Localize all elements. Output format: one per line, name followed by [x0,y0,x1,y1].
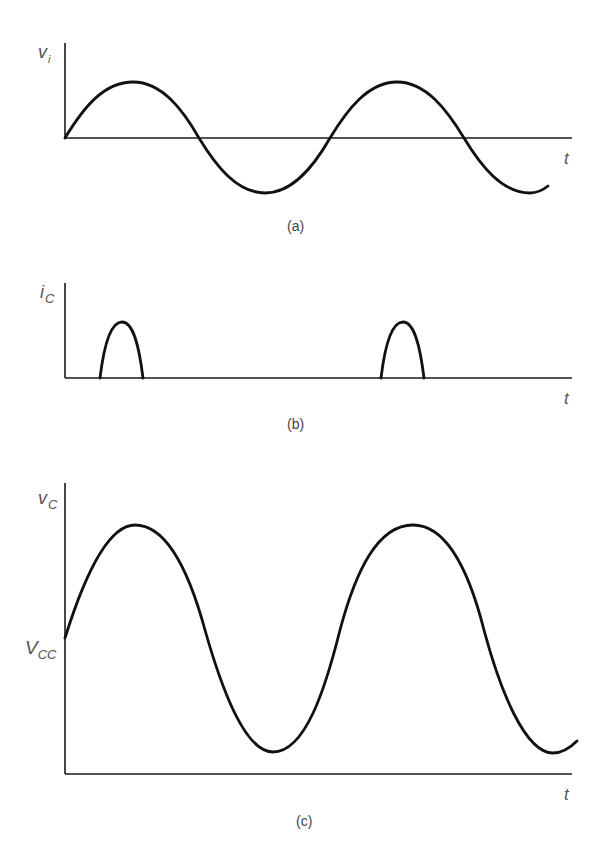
panel-a: vi t (a) [38,42,572,234]
panel-c-vc-waveform [65,525,577,753]
panel-a-y-label: vi [38,42,51,65]
panel-c-vcc-level-label: VCC [25,637,57,662]
panel-b-ic-pulse-1 [100,322,143,378]
panel-c: vC VCC t (c) [25,483,577,829]
class-c-waveform-figure: vi t (a) iC t (b) vC VCC t (c) [0,0,608,857]
panel-a-caption: (a) [287,218,304,234]
panel-c-y-label: vC [38,488,58,512]
panel-c-caption: (c) [296,813,312,829]
panel-b-caption: (b) [287,416,304,432]
panel-b-ic-pulse-2 [381,322,424,378]
panel-b: iC t (b) [40,282,572,432]
panel-b-y-label: iC [40,282,55,306]
panel-c-x-label: t [564,785,570,804]
panel-b-x-label: t [564,389,570,408]
panel-a-x-label: t [564,149,570,168]
